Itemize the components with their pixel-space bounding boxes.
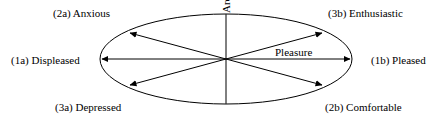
pole-label-depressed: (3a) Depressed xyxy=(55,101,121,114)
pole-label-enthusiastic: (3b) Enthusiastic xyxy=(328,7,403,20)
pole-label-comfortable: (2b) Comfortable xyxy=(325,101,402,114)
affect-circumplex-figure: (2a) Anxious (3b) Enthusiastic (1a) Disp… xyxy=(0,0,442,122)
axis-label-arousal: Arousal xyxy=(220,0,233,13)
axis-label-pleasure: Pleasure xyxy=(275,46,312,59)
pole-label-displeased: (1a) Displeased xyxy=(11,54,80,67)
pole-label-anxious: (2a) Anxious xyxy=(53,7,110,20)
pole-label-pleased: (1b) Pleased xyxy=(371,54,426,67)
